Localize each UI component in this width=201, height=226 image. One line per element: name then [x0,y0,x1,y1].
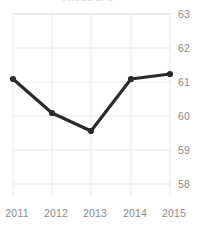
y-axis-tick-61: 61 [178,76,190,88]
data-point-2011[interactable] [10,76,16,82]
y-axis-tick-59: 59 [178,144,190,156]
y-axis-tick-63: 63 [178,8,190,20]
data-point-2012[interactable] [49,110,55,116]
y-axis-tick-60: 60 [178,110,190,122]
x-axis-tick-2013: 2013 [83,207,107,219]
y-axis-tick-58: 58 [178,178,190,190]
y-axis-tick-62: 62 [178,42,190,54]
x-axis-tick-2015: 2015 [162,207,186,219]
line-chart: Wiedziano 63 62 61 60 59 58 [0,0,201,226]
data-point-2014[interactable] [128,76,134,82]
data-point-2015[interactable] [167,71,173,77]
x-axis-tick-2014: 2014 [123,207,147,219]
vertical-gridlines [13,14,170,196]
data-point-2013[interactable] [88,128,94,134]
plot-area [0,0,201,226]
x-axis-tick-2011: 2011 [5,207,28,219]
x-axis-tick-2012: 2012 [44,207,68,219]
